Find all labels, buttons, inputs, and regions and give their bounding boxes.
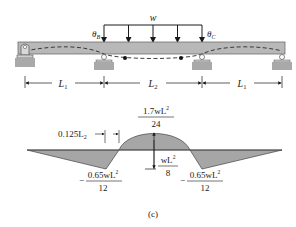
positive-moment: [119, 134, 190, 151]
pin-base: [17, 55, 33, 58]
ground-hatch: [15, 58, 35, 67]
negative-moment-right: [190, 150, 282, 169]
continuous-beam-figure: w θB θC L1 L2: [0, 0, 296, 227]
theta-b-label: θB: [92, 29, 100, 40]
beam: [18, 42, 285, 54]
roller-support-d: [272, 55, 292, 71]
span-label-l1-left: L1: [58, 78, 68, 90]
negative-right-numerator: 0.65wL2: [190, 169, 221, 180]
roller-plate: [96, 60, 112, 62]
negative-left-denominator: 12: [99, 183, 108, 193]
inflection-point: [123, 56, 127, 60]
negative-moment-left-label: − 0.65wL2 12: [79, 169, 122, 193]
negative-moment-right-label: − 0.65wL2 12: [180, 169, 223, 193]
span-label-l1-right: L1: [237, 78, 247, 90]
simple-moment-numerator: wL2: [161, 154, 176, 165]
roller-icon: [200, 55, 205, 60]
peak-positive-label: 1.7wL2 24: [138, 105, 174, 129]
theta-c-label: θC: [207, 29, 216, 40]
inflection-point: [179, 56, 183, 60]
negative-sign: −: [79, 175, 84, 185]
simple-moment-denominator: 8: [166, 168, 171, 178]
peak-positive-numerator: 1.7wL2: [143, 105, 169, 116]
inflection-distance-label: 0.125L2: [58, 129, 87, 140]
roller-plate: [194, 60, 210, 62]
roller-plate: [274, 60, 290, 62]
load-label: w: [150, 12, 157, 23]
span-label-l2: L2: [148, 78, 158, 90]
peak-positive-denominator: 24: [152, 119, 162, 129]
ground-hatch: [192, 62, 212, 70]
negative-right-denominator: 12: [201, 183, 210, 193]
roller-support-b: [94, 55, 114, 71]
roller-icon: [102, 55, 107, 60]
roller-icon: [280, 55, 285, 60]
ground-hatch: [272, 62, 292, 70]
negative-sign: −: [180, 175, 185, 185]
figure-caption: (c): [148, 209, 158, 219]
negative-left-numerator: 0.65wL2: [88, 169, 119, 180]
roller-support-c: [192, 55, 212, 71]
ground-hatch: [94, 62, 114, 70]
distributed-load: w: [104, 12, 202, 42]
pin-hole-icon: [23, 45, 26, 48]
negative-moment-left: [27, 150, 119, 169]
simple-moment-label: wL2 8: [158, 154, 178, 178]
